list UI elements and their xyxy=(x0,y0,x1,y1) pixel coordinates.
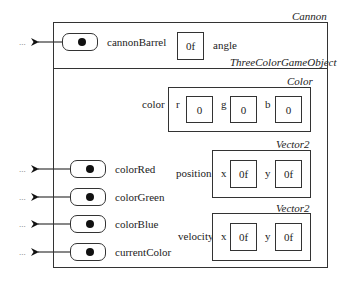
cannon-barrel-label: cannonBarrel xyxy=(107,36,166,48)
current-color-reference[interactable] xyxy=(70,243,106,261)
cannon-class-label: Cannon xyxy=(292,10,327,22)
color-type-label: Color xyxy=(287,75,313,87)
position-type-label: Vector2 xyxy=(276,138,310,150)
velocity-y-label: y xyxy=(265,230,271,242)
ellipsis-current-color: ... xyxy=(19,247,26,257)
color-g-label: g xyxy=(221,98,227,110)
color-blue-label: colorBlue xyxy=(115,218,158,230)
position-x-value: 0f xyxy=(230,160,257,188)
ellipsis-color-blue: ... xyxy=(19,219,26,229)
current-color-label: currentColor xyxy=(115,246,171,258)
color-b-value: 0 xyxy=(275,96,302,123)
reference-dot-icon xyxy=(86,220,94,228)
velocity-field-label: velocity xyxy=(178,230,213,242)
position-y-value: 0f xyxy=(275,160,302,188)
color-red-label: colorRed xyxy=(115,163,155,175)
color-red-reference[interactable] xyxy=(70,160,106,178)
color-r-value: 0 xyxy=(186,96,213,123)
cannon-barrel-reference[interactable] xyxy=(62,33,98,51)
color-green-reference[interactable] xyxy=(70,188,106,206)
three-color-game-object-label: ThreeColorGameObject xyxy=(230,56,337,68)
velocity-x-label: x xyxy=(221,230,227,242)
velocity-x-value: 0f xyxy=(230,223,257,251)
ellipsis-color-green: ... xyxy=(19,192,26,202)
reference-dot-icon xyxy=(78,38,86,46)
velocity-y-value: 0f xyxy=(275,223,302,251)
section-divider xyxy=(53,68,328,69)
reference-dot-icon xyxy=(86,165,94,173)
color-g-value: 0 xyxy=(230,96,257,123)
ellipsis-color-red: ... xyxy=(19,164,26,174)
color-green-label: colorGreen xyxy=(115,191,164,203)
angle-value-box: 0f xyxy=(177,32,204,60)
reference-dot-icon xyxy=(86,248,94,256)
position-x-label: x xyxy=(221,167,227,179)
color-field-label: color xyxy=(142,98,165,110)
ellipsis-cannon-barrel: ... xyxy=(19,37,26,47)
color-b-label: b xyxy=(265,98,271,110)
reference-dot-icon xyxy=(86,193,94,201)
color-r-label: r xyxy=(176,98,180,110)
position-field-label: position xyxy=(176,167,211,179)
angle-label: angle xyxy=(213,39,237,51)
position-y-label: y xyxy=(265,167,271,179)
color-blue-reference[interactable] xyxy=(70,215,106,233)
